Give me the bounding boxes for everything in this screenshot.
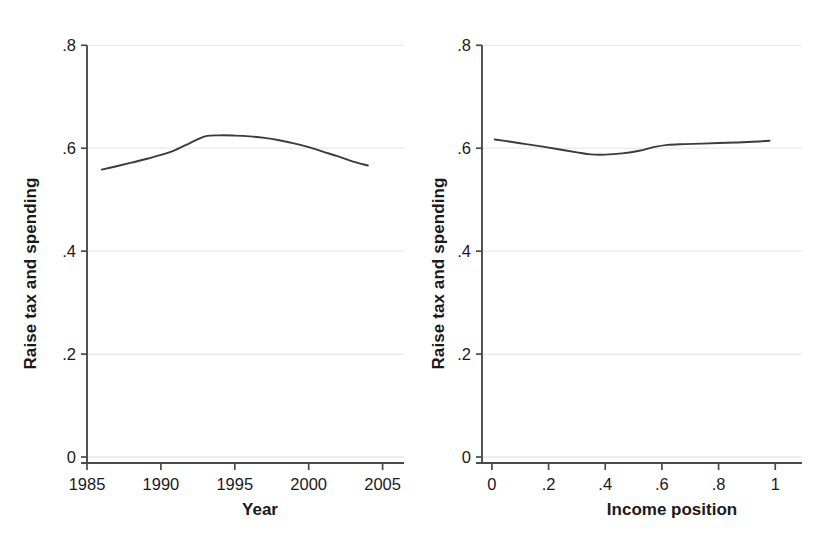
data-line-raise-tax-and-spending (495, 139, 770, 154)
data-line-raise-tax-and-spending (102, 135, 368, 169)
plot-area-year (0, 0, 408, 547)
x-tick-label: 0 (487, 475, 496, 494)
two-panel-line-chart-figure: Raise tax and spending Year 0.2.4.6.8198… (0, 0, 816, 547)
x-tick-label: 1985 (69, 475, 106, 494)
y-tick-label: .2 (457, 345, 471, 364)
y-tick-label: .8 (457, 36, 471, 55)
y-tick-label: .4 (457, 242, 471, 261)
x-tick-label: 2005 (364, 475, 401, 494)
x-tick-label: 1 (771, 475, 780, 494)
y-tick-label: .6 (457, 139, 471, 158)
y-tick-label: .4 (62, 242, 76, 261)
x-tick-label: .8 (712, 475, 726, 494)
chart-panel-income-position: Raise tax and spending Income position 0… (408, 0, 816, 547)
y-tick-label: .8 (62, 36, 76, 55)
x-tick-label: 1995 (216, 475, 253, 494)
y-tick-label: .2 (62, 345, 76, 364)
chart-panel-year: Raise tax and spending Year 0.2.4.6.8198… (0, 0, 408, 547)
x-tick-label: .2 (542, 475, 556, 494)
x-tick-label: 1990 (143, 475, 180, 494)
x-axis-title-left: Year (0, 500, 464, 520)
y-tick-label: 0 (462, 448, 471, 467)
x-tick-label: .6 (655, 475, 669, 494)
x-tick-label: .4 (598, 475, 612, 494)
x-tick-label: 2000 (290, 475, 327, 494)
y-tick-label: 0 (67, 448, 76, 467)
x-axis-title-right: Income position (408, 500, 816, 520)
y-tick-label: .6 (62, 139, 76, 158)
